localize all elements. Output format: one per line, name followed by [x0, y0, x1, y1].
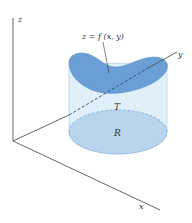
- solid-under-surface-diagram: z y x z = f (x, y) T R: [0, 0, 192, 223]
- solid-t-label: T: [114, 102, 121, 112]
- z-axis-label: z: [17, 15, 23, 24]
- surface-label: z = f (x, y): [81, 32, 124, 41]
- region-r-label: R: [113, 128, 121, 138]
- y-axis-label: y: [177, 50, 183, 59]
- x-axis-label: x: [139, 202, 144, 211]
- y-axis-front: [13, 115, 69, 141]
